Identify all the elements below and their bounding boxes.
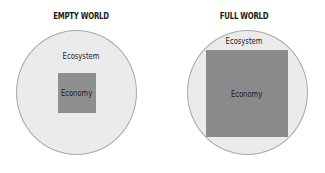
economy-label-full: Economy: [231, 89, 262, 99]
ecosystem-label-full: Ecosystem: [179, 36, 309, 46]
economy-label-empty: Economy: [61, 88, 92, 98]
economy-box-full: Economy: [206, 50, 288, 137]
ecosystem-label-empty: Ecosystem: [16, 51, 146, 61]
full-world-title: FULL WORLD: [178, 11, 311, 21]
full-world-panel: FULL WORLD Ecosystem Economy: [163, 0, 325, 173]
economy-box-empty: Economy: [58, 73, 96, 113]
empty-world-title: EMPTY WORLD: [15, 11, 148, 21]
empty-world-panel: EMPTY WORLD Ecosystem Economy: [0, 0, 162, 173]
